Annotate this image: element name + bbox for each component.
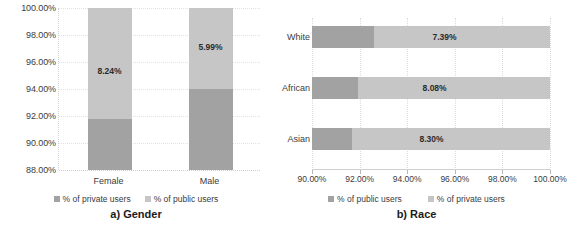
race-bar[interactable]: 7.39% [312,26,550,48]
gender-legend-item[interactable]: % of private users [54,194,131,204]
race-caption: b) Race [272,208,561,220]
race-axis-line [312,169,550,170]
race-bar-value: 8.08% [423,83,447,93]
race-legend-label: % of private users [437,194,505,204]
gender-bar-value: 8.24% [88,66,132,76]
gender-gridline [59,170,260,171]
race-bar-value: 8.30% [419,134,443,144]
gender-legend-label: % of private users [63,194,131,204]
gender-bar-value: 5.99% [189,42,233,52]
race-x-axis: 90.00%92.00%94.00%96.00%98.00%100.00% [312,174,550,186]
race-x-tick: 94.00% [393,174,422,184]
race-bar-segment-private [374,26,550,48]
race-legend-swatch [328,196,334,202]
gender-bar[interactable]: 8.24% [88,8,132,170]
race-bar-segment-private [352,128,550,150]
gender-category-label: Male [200,176,220,186]
race-plot-area: 7.39%8.08%8.30% [312,18,550,170]
race-legend-item[interactable]: % of private users [428,194,505,204]
race-bar[interactable]: 8.08% [312,77,550,99]
gender-bar-segment-private [189,89,233,170]
gender-plot-area: 8.24%5.99% [58,8,260,170]
gender-category-axis: FemaleMale [58,176,260,190]
chart-panel-gender: 100.00%98.00%96.00%94.00%92.00%90.00%88.… [0,0,272,227]
race-category-label: Asian [287,134,310,144]
gender-y-tick: 96.00% [26,57,56,67]
gender-bar-segment-public [88,8,132,119]
race-legend-item[interactable]: % of public users [328,194,402,204]
race-x-tick: 100.00% [533,174,567,184]
gender-y-tick: 100.00% [21,3,56,13]
gender-legend: % of private users% of public users [0,194,272,204]
gender-y-tick: 88.00% [26,165,56,175]
chart-panel-race: WhiteAfricanAsian 7.39%8.08%8.30% 90.00%… [272,0,561,227]
race-bar-segment-public [312,128,352,150]
race-legend: % of public users% of private users [272,194,561,204]
race-bar-segment-public [312,26,374,48]
gender-y-axis: 100.00%98.00%96.00%94.00%92.00%90.00%88.… [2,8,56,170]
gender-legend-swatch [54,196,60,202]
race-legend-label: % of public users [337,194,402,204]
gender-y-tick: 98.00% [26,30,56,40]
gender-legend-swatch [145,196,151,202]
gender-category-label: Female [93,176,123,186]
gender-legend-item[interactable]: % of public users [145,194,219,204]
race-legend-swatch [428,196,434,202]
race-gridline [550,18,551,170]
gender-y-tick: 94.00% [26,84,56,94]
race-bar[interactable]: 8.30% [312,128,550,150]
gender-y-tick: 92.00% [26,111,56,121]
gender-chart: 100.00%98.00%96.00%94.00%92.00%90.00%88.… [0,0,272,227]
race-bar-segment-public [312,77,358,99]
gender-caption: a) Gender [0,208,272,220]
gender-y-tick: 90.00% [26,138,56,148]
gender-bar-segment-private [88,119,132,170]
race-x-tick: 92.00% [345,174,374,184]
race-category-label: African [282,83,310,93]
race-bar-segment-private [358,77,550,99]
race-chart: WhiteAfricanAsian 7.39%8.08%8.30% 90.00%… [272,0,561,227]
race-x-tick: 96.00% [440,174,469,184]
race-bar-value: 7.39% [432,32,456,42]
race-x-tick: 98.00% [488,174,517,184]
gender-bar[interactable]: 5.99% [189,8,233,170]
gender-legend-label: % of public users [154,194,219,204]
race-category-axis: WhiteAfricanAsian [272,18,310,170]
race-x-tick: 90.00% [298,174,327,184]
race-category-label: White [287,32,310,42]
